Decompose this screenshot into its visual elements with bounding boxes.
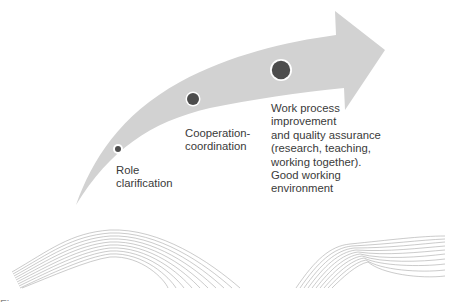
stage-dot-1: [113, 144, 123, 154]
stage-label-work-process: Work process improvement and quality ass…: [271, 102, 381, 196]
wave-lines-left: [12, 230, 240, 288]
stage-label-cooperation-coordination: Cooperation- coordination: [185, 127, 250, 154]
figure-caption: Figure: [0, 297, 31, 302]
stage-dot-3: [270, 59, 292, 81]
wave-lines-right: [296, 236, 445, 288]
stage-dot-2: [186, 92, 201, 107]
stage-label-role-clarification: Role clarification: [116, 164, 173, 191]
